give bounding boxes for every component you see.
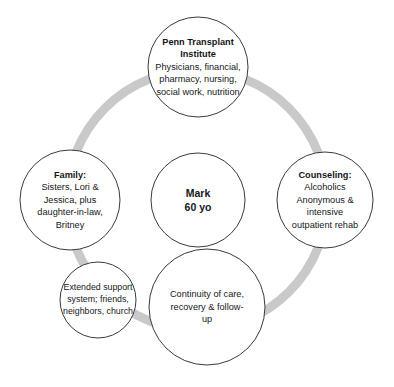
node-circles-layer <box>20 17 373 365</box>
node-circle-family[interactable] <box>20 150 120 250</box>
node-circle-penn-transplant-institute[interactable] <box>148 17 248 117</box>
node-circle-center-node-mark[interactable] <box>151 153 245 247</box>
care-network-diagram: Penn Transplant InstitutePhysicians, fin… <box>0 0 394 387</box>
node-circle-counseling[interactable] <box>277 152 373 248</box>
node-circle-extended-support-system[interactable] <box>60 262 136 338</box>
node-circle-continuity-of-care[interactable] <box>149 249 265 365</box>
diagram-canvas <box>0 0 394 387</box>
